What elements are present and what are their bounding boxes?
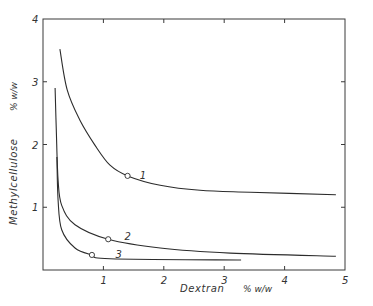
curves: 123	[55, 49, 336, 260]
curve-1	[60, 49, 336, 195]
y-tick-label: 2	[32, 140, 38, 151]
x-tick-label: 5	[342, 275, 348, 286]
curve-2-marker	[106, 237, 111, 242]
y-axis-title: Methylcellulose	[8, 138, 19, 225]
x-tick-label: 2	[161, 275, 167, 286]
x-axis-unit: % w/w	[243, 284, 273, 294]
x-tick-label: 4	[282, 275, 288, 286]
curve-2-label: 2	[125, 231, 131, 242]
y-tick-label: 1	[32, 202, 38, 213]
y-tick-label: 4	[32, 14, 38, 25]
y-tick-label: 3	[32, 77, 38, 88]
curve-3-marker	[89, 252, 94, 257]
axis-ticks: 123451234	[32, 14, 348, 286]
x-tick-label: 1	[100, 275, 106, 286]
curve-3-label: 3	[115, 249, 121, 260]
chart: 123451234 123 Dextran % w/w Methylcellul…	[0, 0, 373, 306]
curve-1-marker	[125, 173, 130, 178]
x-axis-title: Dextran	[180, 283, 224, 294]
curve-1-label: 1	[140, 170, 146, 181]
curve-3	[57, 157, 241, 260]
y-axis-unit: % w/w	[9, 81, 19, 111]
curve-2	[55, 88, 336, 256]
